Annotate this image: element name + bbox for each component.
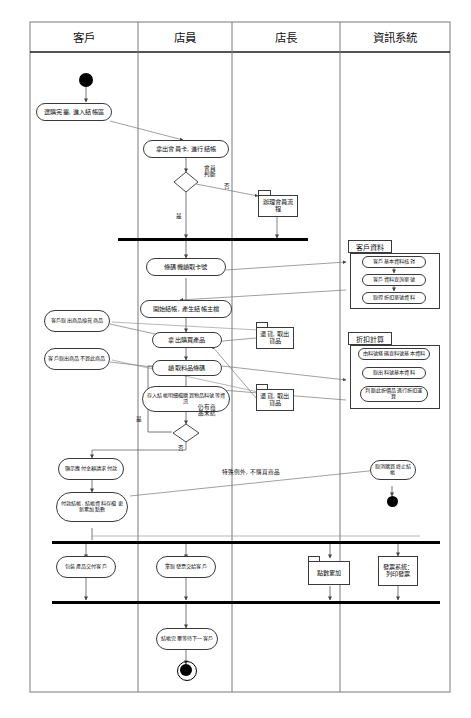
edge-label-member-yes: 是 xyxy=(176,212,182,220)
activity-payment-checkout[interactable]: 付款結帳, 結帳資料存檔 更新累加點數 xyxy=(56,492,128,522)
package-points-accumulate[interactable]: 點數累加 xyxy=(308,561,350,585)
note-customer-exchange[interactable]: 客戶取出商品換貨商品 xyxy=(44,310,110,332)
activity-checkout-finished[interactable]: 結帳完畢等待下一客戶 xyxy=(156,628,218,650)
activity-give-receipt[interactable]: 拿取發票交給客戶 xyxy=(156,556,216,578)
end-node-cancel xyxy=(387,496,398,507)
activity-barcode-read-card[interactable]: 條碼機讀取卡號 xyxy=(146,258,226,276)
edge-label-exception: 特殊例外, 不購買商品 xyxy=(222,468,280,476)
package-return-goods-2[interactable]: 退貨, 取出貨品 xyxy=(256,389,294,411)
edge-label-member-decision: 會員判斷 xyxy=(204,165,216,177)
edge-label-more-yes: 是 xyxy=(136,415,142,423)
package-return-goods-1[interactable]: 退貨, 取出貨品 xyxy=(256,327,294,349)
activity-diagram-canvas: 客戶 店員 店長 資訊系統 選購完畢, 進入結帳區 客戶取出商品換貨商品 客戶取… xyxy=(0,0,471,718)
activity-show-amount-due[interactable]: 顯示應付金額請求付款 xyxy=(58,458,124,480)
package-member-process[interactable]: 辦理會員流程 xyxy=(258,195,298,217)
activity-take-out-goods[interactable]: 拿出購買產品 xyxy=(152,332,222,348)
activity-lookup-item-master[interactable]: 由料號條碼查料號基本資料 xyxy=(358,348,430,360)
group-label-discount-calc: 折扣計算 xyxy=(348,332,392,345)
note-customer-not-buy[interactable]: 客戶取出商品不買此商品 xyxy=(44,348,110,370)
package-invoice-system[interactable]: 發票系統：列印發票 xyxy=(378,556,418,586)
edge-label-member-no: 否 xyxy=(224,182,230,190)
activity-package-deliver[interactable]: 包裝產品交付客戶 xyxy=(56,556,116,578)
activity-apply-discount[interactable]: 判斷此折價品進行折扣運算 xyxy=(360,386,428,402)
activity-cancel-checkout[interactable]: 取消購買終止結帳 xyxy=(370,460,416,480)
lane-title-customer: 客戶 xyxy=(30,26,138,50)
start-node xyxy=(79,73,93,87)
group-label-customer-data: 客戶資料 xyxy=(348,240,392,253)
lane-title-system: 資訊系統 xyxy=(340,26,450,50)
lane-title-clerk: 店員 xyxy=(138,26,232,50)
activity-read-item-barcode[interactable]: 讀取料品條碼 xyxy=(152,360,222,376)
activity-begin-checkout[interactable]: 開始結帳, 產生結帳主檔 xyxy=(140,300,232,318)
group-connectors-customer-data xyxy=(350,253,438,307)
activity-fetch-item-master[interactable]: 取出料號基本資料 xyxy=(362,367,426,379)
lane-title-manager: 店長 xyxy=(232,26,340,50)
activity-shopping-done[interactable]: 選購完畢, 進入結帳區 xyxy=(36,103,112,121)
activity-save-checkout-detail[interactable]: 存入結帳明細檔購買物品料號等資訊 xyxy=(142,386,230,412)
activity-member-card-checkout[interactable]: 拿出會員卡, 進行結帳 xyxy=(143,140,229,158)
edge-label-item-decision: 仍有商品未結 xyxy=(198,404,216,416)
end-node-main-ring xyxy=(177,661,197,681)
edge-label-more-no: 否 xyxy=(178,444,184,452)
